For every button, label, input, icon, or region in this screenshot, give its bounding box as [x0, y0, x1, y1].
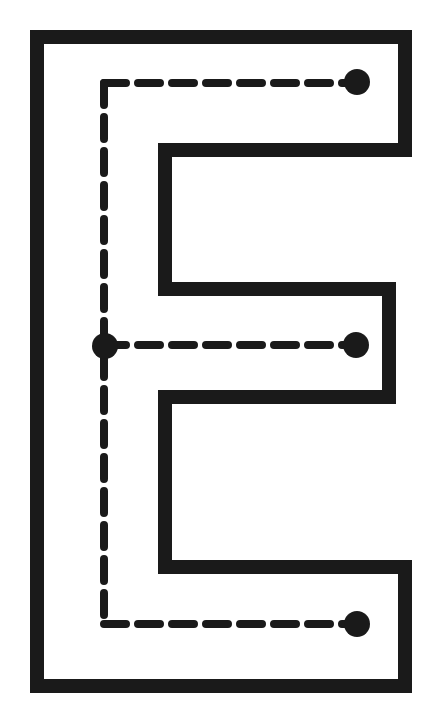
- letter-e-tracing-canvas: [0, 0, 443, 719]
- letter-tracing-worksheet: [0, 0, 443, 719]
- trace-guide-group: [104, 83, 348, 624]
- dot-bottom-right-end: [344, 611, 370, 637]
- dot-middle-right-end: [343, 332, 369, 358]
- dot-middle-left-junction: [92, 333, 118, 359]
- dot-top-right-end: [344, 69, 370, 95]
- letter-outline-e: [37, 37, 405, 686]
